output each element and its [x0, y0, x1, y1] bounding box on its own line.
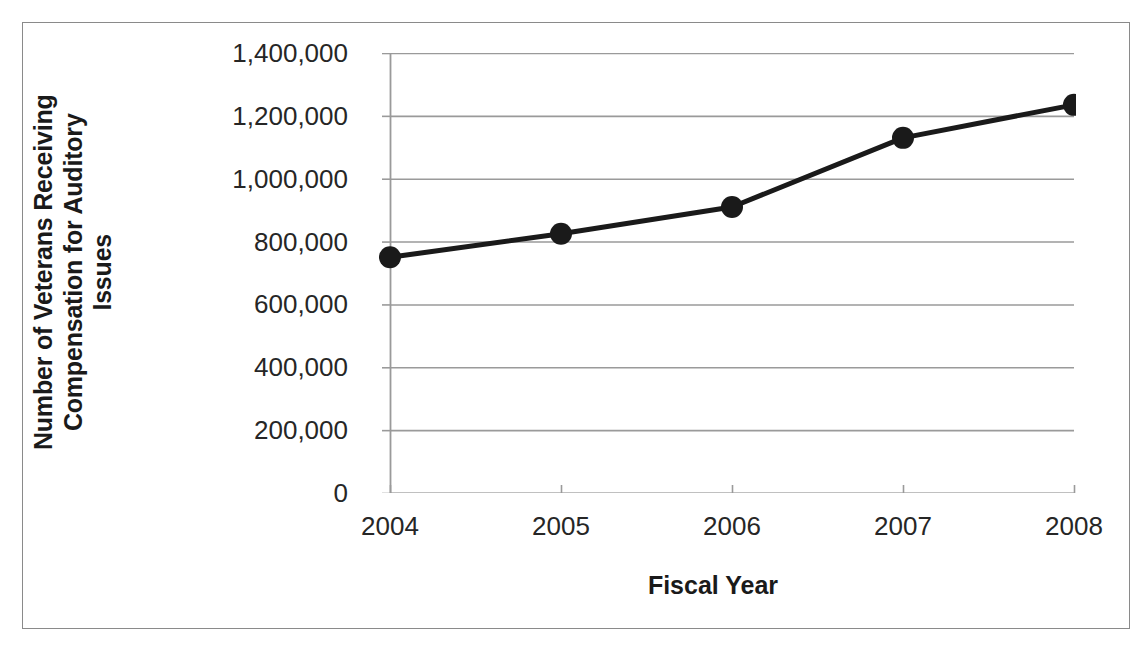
series-line: [390, 105, 1074, 257]
x-tick-label-2007: 2007: [843, 511, 963, 542]
y-tick-label-2: 400,000: [148, 352, 348, 383]
y-tick-label-4: 800,000: [148, 226, 348, 257]
x-axis-title: Fiscal Year: [368, 571, 1058, 600]
data-point-2008: [1063, 94, 1076, 116]
y-tick-label-6: 1,200,000: [148, 100, 348, 131]
x-tick-label-2004: 2004: [330, 511, 450, 542]
x-tick-label-2008: 2008: [1014, 511, 1134, 542]
y-axis-title-line-1: Number of Veterans Receiving: [29, 37, 59, 507]
y-axis-title-line-3: Issues: [88, 37, 118, 507]
data-point-2006: [721, 196, 743, 218]
x-axis-tick-labels: 20042005200620072008: [368, 511, 1076, 551]
y-tick-label-3: 600,000: [148, 289, 348, 320]
y-axis-tick-labels: 0200,000400,000600,000800,0001,000,0001,…: [148, 53, 348, 493]
y-axis-title: Number of Veterans Receiving Compensatio…: [29, 37, 118, 507]
y-tick-label-5: 1,000,000: [148, 163, 348, 194]
x-tick-label-2005: 2005: [501, 511, 621, 542]
y-tick-label-1: 200,000: [148, 415, 348, 446]
y-tick-label-7: 1,400,000: [148, 38, 348, 69]
plot-area: [368, 53, 1076, 493]
x-tick-label-2006: 2006: [672, 511, 792, 542]
line-chart-svg: [368, 53, 1076, 493]
chart-figure: Number of Veterans Receiving Compensatio…: [22, 22, 1130, 629]
data-point-2004: [379, 246, 401, 268]
y-tick-label-0: 0: [148, 478, 348, 509]
data-point-2005: [550, 223, 572, 245]
y-axis-title-line-2: Compensation for Auditory: [58, 37, 88, 507]
data-point-2007: [892, 127, 914, 149]
